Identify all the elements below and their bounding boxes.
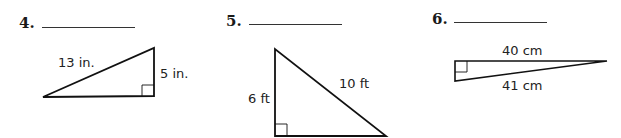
answer-blank[interactable] xyxy=(454,22,547,23)
problem-6: 6. 40 cm 41 cm xyxy=(400,0,621,138)
hypotenuse-label: 41 cm xyxy=(502,78,543,93)
answer-blank[interactable] xyxy=(249,24,342,25)
problem-number: 4. xyxy=(19,14,35,32)
leg-label: 5 in. xyxy=(160,66,188,81)
hypotenuse-label: 13 in. xyxy=(58,55,95,70)
answer-blank[interactable] xyxy=(42,27,135,28)
problem-5: 5. 6 ft 10 ft xyxy=(210,0,410,138)
problem-number: 6. xyxy=(432,10,448,28)
leg-label: 40 cm xyxy=(502,43,543,58)
hypotenuse-label: 10 ft xyxy=(339,76,369,91)
problem-number: 5. xyxy=(226,12,242,30)
leg-label: 6 ft xyxy=(248,91,270,106)
problem-4: 4. 13 in. 5 in. xyxy=(0,0,200,138)
